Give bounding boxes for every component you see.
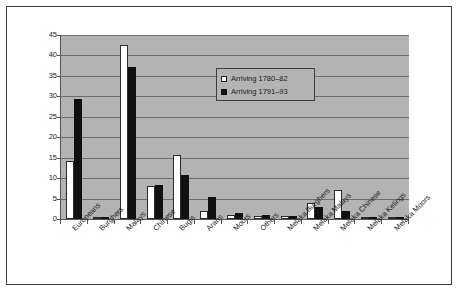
bar: [93, 217, 101, 219]
bar: [388, 217, 396, 219]
y-axis-tick-label: 15: [31, 154, 57, 162]
y-axis-tick-label: 30: [31, 92, 57, 100]
x-axis-tick-mark: [274, 220, 275, 224]
bar: [181, 175, 189, 219]
x-axis-tick-mark: [114, 220, 115, 224]
legend-label: Arriving 1780–82: [231, 75, 288, 83]
x-axis-tick-mark: [60, 220, 61, 224]
x-axis-tick-mark: [87, 220, 88, 224]
bar: [74, 99, 82, 219]
y-axis-tick-mark: [57, 35, 61, 36]
y-axis-tick-mark: [57, 96, 61, 97]
legend-item: Arriving 1780–82: [221, 72, 310, 85]
bar-series-container: [61, 35, 409, 219]
x-axis-tick-mark: [354, 220, 355, 224]
bar-group: [168, 35, 195, 219]
bar-group: [222, 35, 249, 219]
bar: [155, 185, 163, 219]
bar-group: [115, 35, 142, 219]
y-axis-tick-label: 5: [31, 195, 57, 203]
bar: [147, 186, 155, 219]
x-axis-tick-mark: [221, 220, 222, 224]
y-axis-tick-label: 10: [31, 174, 57, 182]
y-axis-tick-mark: [57, 76, 61, 77]
y-axis-tick-label: 40: [31, 51, 57, 59]
legend-item: Arriving 1791–93: [221, 85, 310, 98]
y-axis-tick-mark: [57, 55, 61, 56]
legend-label: Arriving 1791–93: [231, 88, 288, 96]
y-axis-tick-label: 35: [31, 72, 57, 80]
bar: [227, 215, 235, 219]
plot-area: [60, 35, 409, 220]
bar: [281, 216, 289, 219]
bar-group: [88, 35, 115, 219]
y-axis-tick-mark: [57, 158, 61, 159]
y-axis-tick-label: 25: [31, 113, 57, 121]
legend-swatch-white-square: [221, 76, 227, 82]
bar-group: [248, 35, 275, 219]
x-axis-tick-mark: [140, 220, 141, 224]
y-axis-tick-mark: [57, 137, 61, 138]
bar-group: [141, 35, 168, 219]
x-axis-tick-mark: [194, 220, 195, 224]
bar: [128, 67, 136, 220]
y-axis-tick-mark: [57, 199, 61, 200]
x-axis-tick-mark: [301, 220, 302, 224]
x-axis-tick-mark: [408, 220, 409, 224]
x-axis-tick-mark: [247, 220, 248, 224]
y-axis-tick-label: 0: [31, 215, 57, 223]
bar: [361, 217, 369, 219]
legend-swatch-black-square: [221, 89, 227, 95]
x-axis-labels: EuropeansBurghersMalaysChineseBugisArabs…: [60, 221, 408, 291]
y-axis: 454035302520151050: [31, 27, 57, 227]
bar: [173, 155, 181, 219]
bar-group: [329, 35, 356, 219]
bar-group: [382, 35, 409, 219]
x-axis-tick-mark: [381, 220, 382, 224]
x-axis-tick-mark: [167, 220, 168, 224]
chart-legend: Arriving 1780–82 Arriving 1791–93: [216, 68, 315, 101]
y-axis-tick-label: 45: [31, 31, 57, 39]
bar: [254, 216, 262, 219]
y-axis-tick-mark: [57, 178, 61, 179]
bar: [66, 161, 74, 219]
figure-border: 454035302520151050 EuropeansBurghersMala…: [6, 6, 452, 285]
bar-group: [275, 35, 302, 219]
x-axis-tick-mark: [328, 220, 329, 224]
y-axis-tick-label: 20: [31, 133, 57, 141]
y-axis-tick-mark: [57, 117, 61, 118]
bar-group: [195, 35, 222, 219]
bar: [120, 45, 128, 219]
bar: [200, 211, 208, 219]
chart-figure: 454035302520151050 EuropeansBurghersMala…: [0, 0, 460, 292]
bar-group: [61, 35, 88, 219]
